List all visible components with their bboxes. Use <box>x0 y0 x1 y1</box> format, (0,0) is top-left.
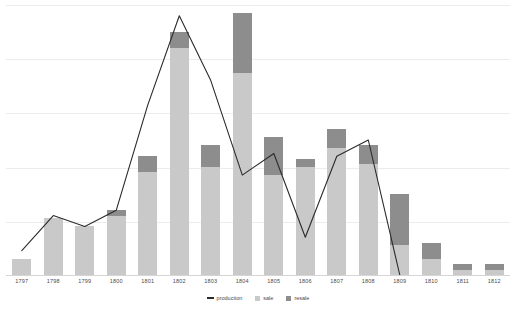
legend-item[interactable]: production <box>207 295 243 301</box>
legend-label: sale <box>263 295 273 301</box>
legend-label: production <box>217 295 243 301</box>
legend-label: resale <box>294 295 309 301</box>
legend-square-marker-icon <box>286 296 291 301</box>
x-axis-tick-label: 1800 <box>101 278 133 284</box>
x-axis-line <box>6 275 510 276</box>
production-line <box>22 16 400 275</box>
x-axis-tick-label: 1801 <box>132 278 164 284</box>
x-axis-tick-label: 1808 <box>353 278 385 284</box>
legend-square-marker-icon <box>255 296 260 301</box>
x-axis-tick-labels: 1797179817991800180118021803180418051806… <box>6 278 510 290</box>
x-axis-tick-label: 1810 <box>416 278 448 284</box>
legend-item[interactable]: resale <box>286 295 309 301</box>
plot-area <box>6 4 510 276</box>
x-axis-tick-label: 1804 <box>227 278 259 284</box>
x-axis-tick-label: 1809 <box>384 278 416 284</box>
x-axis-tick-label: 1807 <box>321 278 353 284</box>
legend-item[interactable]: sale <box>255 295 273 301</box>
x-axis-tick-label: 1806 <box>290 278 322 284</box>
x-axis-tick-label: 1798 <box>38 278 70 284</box>
x-axis-tick-label: 1811 <box>447 278 479 284</box>
x-axis-tick-label: 1803 <box>195 278 227 284</box>
x-axis-tick-label: 1802 <box>164 278 196 284</box>
chart-legend: productionsaleresale <box>0 295 516 301</box>
legend-line-marker-icon <box>207 297 214 299</box>
x-axis-tick-label: 1797 <box>6 278 38 284</box>
x-axis-tick-label: 1799 <box>69 278 101 284</box>
x-axis-tick-label: 1812 <box>479 278 511 284</box>
stacked-bar-line-chart: 1797179817991800180118021803180418051806… <box>0 0 516 321</box>
x-axis-tick-label: 1805 <box>258 278 290 284</box>
production-line-layer <box>6 4 510 276</box>
